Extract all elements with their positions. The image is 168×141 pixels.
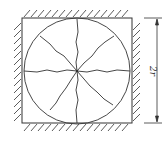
hatching-left bbox=[14, 23, 21, 121]
hatching-bottom bbox=[24, 124, 128, 131]
hatching-right bbox=[133, 23, 140, 121]
hatching-top bbox=[24, 10, 128, 17]
center-point bbox=[76, 70, 79, 73]
plate-diagram: 2r bbox=[0, 0, 168, 141]
dimension-label: 2r bbox=[148, 65, 158, 77]
